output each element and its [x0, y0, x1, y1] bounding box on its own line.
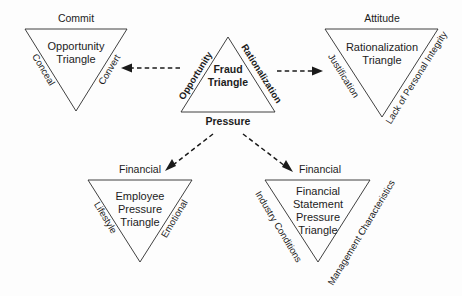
rationalization-triangle-group: Attitude Rationalization Triangle Justif…: [325, 12, 449, 126]
pressure-financial-arrow-line: [243, 134, 285, 166]
fraud-triangle-inner-line1: Fraud: [213, 63, 242, 75]
financial-statement-pressure-triangle-top-label: Financial: [299, 163, 341, 175]
pressure-financial-arrow: [243, 134, 293, 172]
financial-statement-pressure-triangle-inner-line4: Triangle: [298, 224, 337, 236]
rationalization-arrow-head: [312, 67, 323, 76]
employee-pressure-triangle-inner-line2: Pressure: [118, 203, 162, 215]
pressure-employee-arrow: [165, 134, 213, 171]
fraud-triangle-group: Fraud Triangle Opportunity Rationalizati…: [176, 37, 284, 127]
employee-pressure-triangle-side-right-label: Emotional: [159, 198, 190, 240]
opportunity-triangle-group: Commit Opportunity Triangle Conceal Conv…: [25, 12, 127, 111]
opportunity-triangle-side-left-label: Conceal: [30, 52, 57, 88]
opportunity-triangle-inner-line2: Triangle: [56, 53, 95, 65]
employee-pressure-triangle-inner-line3: Triangle: [120, 216, 159, 228]
opportunity-arrow-head: [121, 64, 132, 73]
rationalization-arrow: [277, 67, 323, 76]
employee-pressure-triangle-group: Financial Employee Pressure Triangle Lif…: [88, 163, 192, 262]
opportunity-triangle-top-label: Commit: [58, 12, 94, 24]
employee-pressure-triangle-top-label: Financial: [119, 163, 161, 175]
financial-statement-pressure-triangle-group: Financial Financial Statement Pressure T…: [253, 163, 397, 287]
rationalization-triangle-inner-line1: Rationalization: [346, 41, 418, 53]
opportunity-triangle-inner-line1: Opportunity: [48, 40, 105, 52]
fraud-triangle-side-right-label: Rationalization: [239, 42, 284, 105]
financial-statement-pressure-triangle-inner-line1: Financial: [296, 185, 340, 197]
pressure-employee-arrow-head: [165, 159, 176, 171]
fraud-triangle-inner-line2: Triangle: [208, 76, 248, 88]
fraud-triangle-diagram: Fraud Triangle Opportunity Rationalizati…: [0, 0, 462, 296]
opportunity-triangle-side-right-label: Convert: [96, 52, 123, 86]
financial-statement-pressure-triangle-inner-line2: Statement: [293, 198, 343, 210]
rationalization-triangle-inner-line2: Triangle: [362, 54, 401, 66]
opportunity-arrow: [121, 64, 180, 73]
pressure-financial-arrow-head: [282, 160, 293, 172]
rationalization-triangle-top-label: Attitude: [364, 12, 400, 24]
employee-pressure-triangle-inner-line1: Employee: [116, 190, 165, 202]
financial-statement-pressure-triangle-inner-line3: Pressure: [296, 211, 340, 223]
pressure-employee-arrow-line: [173, 134, 213, 165]
employee-pressure-triangle-side-left-label: Lifestyle: [92, 200, 119, 236]
fraud-triangle-side-bottom-label: Pressure: [206, 115, 251, 127]
